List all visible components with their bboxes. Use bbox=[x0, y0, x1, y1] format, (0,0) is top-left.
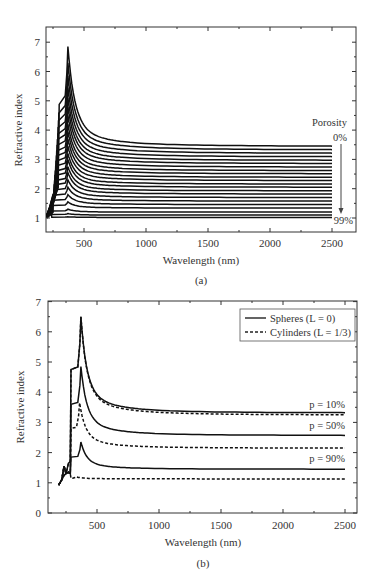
chart-a-caption: (a) bbox=[195, 274, 208, 287]
porosity-curve bbox=[47, 208, 332, 217]
chart-b-caption: (b) bbox=[197, 557, 210, 570]
chart-b: 01234567 5001000150020002500 Spheres (L … bbox=[14, 296, 357, 570]
x-tick-label: 2500 bbox=[334, 519, 357, 531]
y-tick-label: 5 bbox=[36, 356, 42, 368]
y-tick-label: 6 bbox=[35, 66, 41, 78]
y-tick-label: 3 bbox=[35, 153, 41, 165]
label-p50: p = 50% bbox=[309, 420, 345, 431]
y-tick-label: 2 bbox=[36, 447, 42, 459]
y-tick-label: 6 bbox=[36, 326, 42, 338]
legend-spheres-label: Spheres (L = 0) bbox=[270, 313, 336, 325]
legend-cylinders-label: Cylinders (L = 1/3) bbox=[270, 327, 352, 339]
chart-a-y-axis-title: Refractive index bbox=[12, 93, 24, 166]
label-p90: p = 90% bbox=[309, 453, 345, 464]
y-tick-label: 4 bbox=[35, 124, 41, 136]
x-tick-label: 1000 bbox=[148, 519, 171, 531]
x-tick-label: 1000 bbox=[135, 237, 158, 249]
y-tick-label: 0 bbox=[36, 507, 42, 519]
porosity-arrowhead-icon bbox=[339, 208, 344, 214]
y-tick-label: 1 bbox=[36, 477, 42, 489]
porosity-curve bbox=[47, 63, 332, 216]
x-tick-label: 2000 bbox=[259, 237, 282, 249]
porosity-curve bbox=[47, 124, 332, 216]
x-tick-label: 500 bbox=[89, 519, 106, 531]
x-tick-label: 2000 bbox=[272, 519, 295, 531]
cylinders-curve bbox=[59, 472, 345, 485]
chart-b-curves bbox=[59, 317, 345, 486]
y-tick-label: 5 bbox=[35, 95, 41, 107]
chart-a-x-axis-title: Wavelength (nm) bbox=[163, 254, 240, 267]
x-tick-label: 1500 bbox=[210, 519, 233, 531]
cylinders-curve bbox=[59, 317, 345, 486]
porosity-top-label: 0% bbox=[333, 132, 347, 143]
porosity-bottom-label: 99% bbox=[334, 215, 354, 226]
y-tick-label: 7 bbox=[35, 36, 41, 48]
y-tick-label: 3 bbox=[36, 416, 42, 428]
chart-b-legend: Spheres (L = 0) Cylinders (L = 1/3) bbox=[240, 309, 355, 341]
x-tick-label: 1500 bbox=[197, 237, 220, 249]
spheres-curve bbox=[59, 317, 345, 486]
x-tick-label: 500 bbox=[76, 237, 93, 249]
chart-a: 1234567 5001000150020002500 Refractive i… bbox=[12, 27, 356, 287]
chart-b-x-axis-title: Wavelength (nm) bbox=[165, 536, 242, 549]
label-p10: p = 10% bbox=[309, 399, 345, 410]
figure: 1234567 5001000150020002500 Refractive i… bbox=[0, 0, 378, 587]
y-tick-label: 4 bbox=[36, 386, 42, 398]
y-tick-label: 2 bbox=[35, 183, 41, 195]
spheres-curve bbox=[59, 367, 345, 486]
chart-b-y-axis-title: Refractive index bbox=[14, 370, 26, 443]
chart-a-curves bbox=[47, 47, 332, 218]
porosity-title: Porosity bbox=[312, 117, 348, 128]
y-tick-label: 7 bbox=[36, 296, 42, 308]
x-tick-label: 2500 bbox=[321, 237, 344, 249]
y-tick-label: 1 bbox=[35, 212, 41, 224]
